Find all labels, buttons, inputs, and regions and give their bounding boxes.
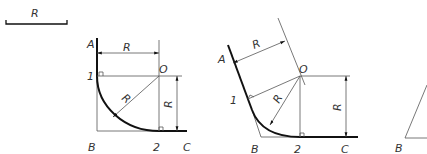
point-a-label: A xyxy=(86,38,95,51)
figure-3-acute-partial: B xyxy=(395,85,427,154)
point-b-label: B xyxy=(88,141,96,154)
point-1-label: 1 xyxy=(230,94,237,107)
point-o-label: O xyxy=(299,63,308,76)
dim-vertical-label: R xyxy=(162,100,175,108)
point-o-label: O xyxy=(159,63,168,76)
dim-radius-label: R xyxy=(119,91,133,106)
point-c-label: C xyxy=(341,143,349,154)
dim-horizontal-label: R xyxy=(123,41,131,54)
drawing-canvas: R A 1 O B 2 C R R R xyxy=(0,0,427,154)
dim-vertical-label: R xyxy=(331,103,344,111)
point-2-label: 2 xyxy=(294,143,301,154)
figure-1-right-angle-fillet: A 1 O B 2 C R R R xyxy=(86,38,191,154)
point-b-label: B xyxy=(251,143,259,154)
scale-label: R xyxy=(31,7,39,20)
dim-slanted-label: R xyxy=(250,37,262,52)
point-a-label: A xyxy=(217,53,226,66)
figure-2-obtuse-fillet: A 1 O B 2 C R R R xyxy=(217,18,358,154)
point-1-label: 1 xyxy=(87,70,94,83)
point-b-label: B xyxy=(395,142,403,154)
point-c-label: C xyxy=(183,141,191,154)
scale-bar: R xyxy=(6,7,67,24)
point-2-label: 2 xyxy=(153,141,160,154)
